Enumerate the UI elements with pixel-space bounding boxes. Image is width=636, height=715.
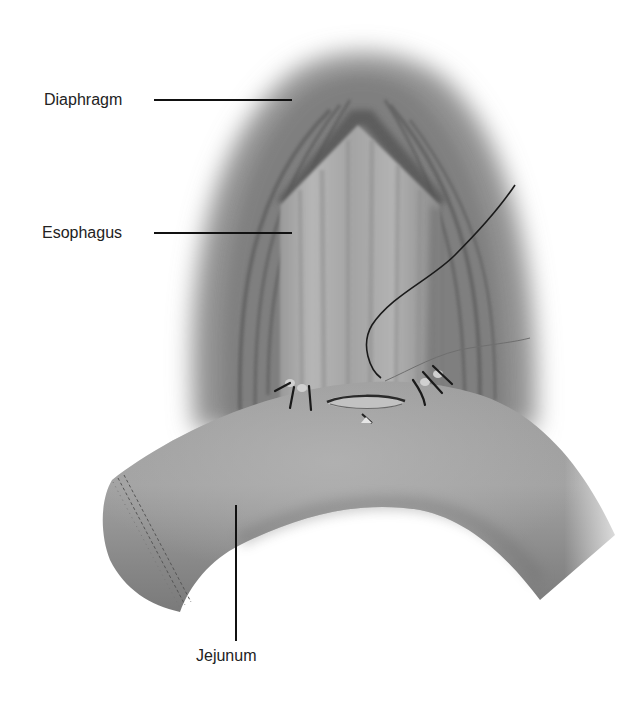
- esophagus-label: Esophagus: [42, 225, 122, 241]
- jejunum: [103, 382, 636, 715]
- esophagojejunostomy-illustration: Diaphragm Esophagus Jejunum: [0, 0, 636, 715]
- jejunum-label: Jejunum: [196, 648, 256, 664]
- diaphragm-label: Diaphragm: [44, 92, 122, 108]
